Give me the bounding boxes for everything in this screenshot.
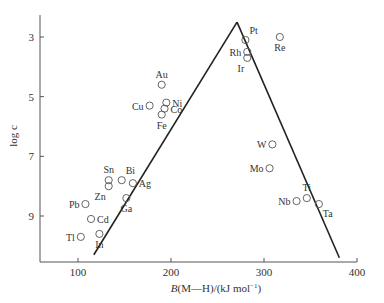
marker-circle-icon — [266, 165, 273, 172]
y-tick-label: 3 — [29, 31, 35, 43]
point-label: Ta — [323, 208, 333, 219]
data-point-rh: Rh — [230, 47, 251, 58]
point-label: Rh — [230, 47, 242, 58]
data-point-re: Re — [274, 33, 286, 53]
left-branch-line — [94, 22, 237, 255]
point-label: Cd — [97, 214, 109, 225]
marker-circle-icon — [158, 81, 165, 88]
y-tick-label: 9 — [29, 210, 35, 222]
point-label: Cu — [132, 101, 144, 112]
data-point-sn: Sn — [103, 164, 114, 184]
point-label: Co — [170, 104, 182, 115]
data-point-in: In — [95, 230, 103, 250]
x-axis-label: B(M—H)/(kJ mol−1) — [171, 282, 262, 295]
marker-circle-icon — [129, 180, 136, 187]
point-label: Pb — [69, 199, 80, 210]
axes: 1002003004003579 — [29, 15, 366, 278]
y-tick-label: 5 — [29, 91, 35, 103]
marker-circle-icon — [158, 111, 165, 118]
y-axis-label: log c — [7, 125, 19, 147]
marker-circle-icon — [96, 230, 103, 237]
point-label: Sn — [103, 164, 114, 175]
x-tick-label: 300 — [256, 266, 273, 278]
data-point-ag: Ag — [129, 178, 151, 189]
volcano-plot: 1002003004003579 PtReRhIrAuCuNiCoFeWMoTi… — [0, 0, 384, 303]
point-label: Nb — [278, 196, 290, 207]
data-point-w: W — [257, 139, 276, 150]
right-branch-line — [237, 22, 339, 258]
data-points: PtReRhIrAuCuNiCoFeWMoTiNbTaSnZnBiAgGaPbC… — [66, 25, 333, 250]
y-tick-label: 7 — [29, 150, 35, 162]
data-point-au: Au — [156, 69, 168, 89]
point-label: W — [257, 139, 267, 150]
data-point-co: Co — [161, 104, 182, 115]
point-label: Zn — [95, 191, 106, 202]
data-point-ga: Ga — [121, 195, 133, 215]
marker-circle-icon — [293, 197, 300, 204]
marker-circle-icon — [82, 200, 89, 207]
point-label: In — [95, 239, 103, 250]
axis-labels: log c B(M—H)/(kJ mol−1) — [7, 125, 261, 295]
point-label: Ag — [139, 178, 151, 189]
point-label: Au — [156, 69, 168, 80]
data-point-bi: Bi — [118, 165, 135, 184]
x-tick-label: 100 — [70, 266, 87, 278]
data-point-pt: Pt — [242, 25, 258, 44]
x-tick-label: 400 — [349, 266, 366, 278]
data-point-zn: Zn — [95, 183, 113, 203]
data-point-cd: Cd — [87, 214, 108, 225]
point-label: Mo — [250, 163, 264, 174]
data-point-cu: Cu — [132, 101, 153, 112]
data-point-pb: Pb — [69, 199, 89, 210]
marker-circle-icon — [276, 33, 283, 40]
point-label: Fe — [157, 120, 168, 131]
point-label: Ir — [238, 63, 245, 74]
marker-circle-icon — [118, 177, 125, 184]
point-label: Ga — [121, 203, 133, 214]
trend-lines — [94, 22, 340, 258]
marker-circle-icon — [87, 215, 94, 222]
point-label: Ti — [303, 182, 312, 193]
marker-circle-icon — [303, 195, 310, 202]
marker-circle-icon — [269, 141, 276, 148]
point-label: Tl — [66, 232, 75, 243]
x-tick-label: 200 — [163, 266, 180, 278]
data-point-fe: Fe — [157, 111, 168, 131]
data-point-nb: Nb — [278, 196, 300, 207]
marker-circle-icon — [146, 102, 153, 109]
data-point-ti: Ti — [303, 182, 312, 202]
point-label: Bi — [126, 165, 136, 176]
data-point-mo: Mo — [250, 163, 274, 174]
marker-circle-icon — [77, 233, 84, 240]
point-label: Pt — [249, 25, 258, 36]
point-label: Re — [274, 42, 286, 53]
data-point-tl: Tl — [66, 232, 84, 243]
